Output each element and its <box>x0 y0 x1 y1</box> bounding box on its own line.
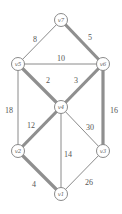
edge-v6-v4 <box>61 64 103 107</box>
edge-weight-label: 10 <box>57 54 65 63</box>
edge-weight-label: 5 <box>88 33 92 42</box>
node-label: v2 <box>15 148 22 154</box>
edge-v5-v4 <box>18 64 61 107</box>
edge-v7-v5 <box>18 20 61 64</box>
node-label: v4 <box>58 104 65 110</box>
node-v2: v2 <box>12 145 25 158</box>
edge-v4-v2 <box>18 107 61 151</box>
node-v1: v1 <box>55 188 68 201</box>
node-v6: v6 <box>97 58 110 71</box>
edge-weight-label: 16 <box>110 106 118 115</box>
edge-weight-label: 14 <box>64 150 72 159</box>
edge-weight-label: 3 <box>74 76 78 85</box>
edge-weight-label: 30 <box>86 123 94 132</box>
edge-v2-v1 <box>18 151 61 194</box>
node-label: v1 <box>58 191 65 197</box>
node-v3: v3 <box>97 145 110 158</box>
node-label: v6 <box>100 61 107 67</box>
edge-weight-label: 2 <box>46 76 50 85</box>
node-label: v7 <box>58 17 65 23</box>
node-v7: v7 <box>55 14 68 27</box>
edge-weight-label: 26 <box>85 178 93 187</box>
edge-v4-v3 <box>61 107 103 151</box>
edge-weight-label: 4 <box>32 180 36 189</box>
node-label: v3 <box>100 148 107 154</box>
node-v5: v5 <box>12 58 25 71</box>
edge-v7-v6 <box>61 20 103 64</box>
edge-weight-label: 18 <box>5 106 13 115</box>
edge-weight-label: 8 <box>33 35 37 44</box>
weighted-graph-diagram: 8510231816121430426 v7v5v6v4v2v3v1 <box>0 0 122 214</box>
edge-weight-label: 12 <box>27 121 35 130</box>
node-v4: v4 <box>55 101 68 114</box>
node-label: v5 <box>15 61 22 67</box>
